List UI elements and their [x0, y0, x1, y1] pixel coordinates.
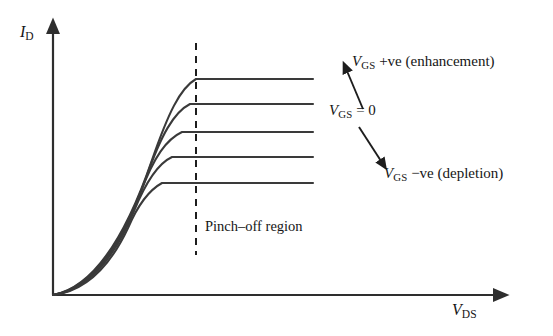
vgs-zero-label-subscript: GS [338, 108, 352, 120]
enhancement-label-subscript: GS [361, 59, 375, 71]
x-axis-label-symbol: V [452, 301, 462, 318]
depletion-label: VGS −ve (depletion) [384, 166, 503, 183]
curve-vgs-enhancement-top [53, 79, 313, 295]
x-axis-label-subscript: DS [462, 308, 477, 320]
vgs-zero-label-symbol: V [329, 102, 338, 118]
depletion-label-subscript: GS [393, 171, 407, 183]
curve-vgs-depletion-bottom [53, 183, 313, 295]
y-axis-label: ID [20, 24, 34, 43]
enhancement-label: VGS +ve (enhancement) [352, 54, 495, 71]
enhancement-label-symbol: V [352, 53, 361, 69]
depletion-arrow [359, 127, 381, 161]
x-axis-label: VDS [452, 302, 477, 321]
y-axis-label-subscript: D [25, 30, 34, 42]
enhancement-label-text: +ve (enhancement) [375, 53, 494, 69]
jfet-characteristics-figure: ID VDS Pinch–off region VGS +ve (enhance… [0, 0, 553, 336]
depletion-label-symbol: V [384, 165, 393, 181]
vgs-zero-label: VGS = 0 [329, 103, 376, 120]
vgs-zero-label-text: = 0 [352, 102, 375, 118]
pinch-off-region-label: Pinch–off region [205, 219, 303, 234]
depletion-label-text: −ve (depletion) [407, 165, 503, 181]
